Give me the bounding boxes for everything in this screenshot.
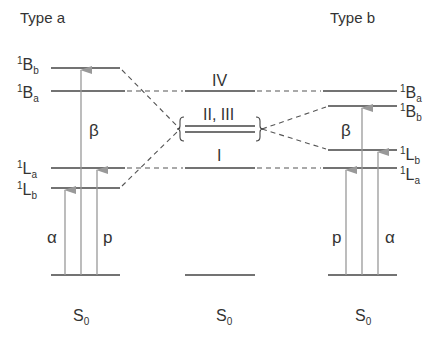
- right-level-1Bb: 1Bb: [400, 103, 422, 123]
- right-level-1Lb: 1Lb: [400, 146, 420, 166]
- right-p-label: p: [332, 229, 341, 246]
- center-level-I: I: [217, 148, 221, 164]
- center-level-IV: IV: [212, 73, 227, 89]
- right-levels: [323, 91, 397, 275]
- left-beta-label: β: [89, 122, 99, 139]
- left-level-1Ba: 1Ba: [17, 84, 39, 104]
- center-level-II-III: II, III: [203, 107, 234, 123]
- left-p-label: p: [103, 229, 112, 246]
- type-b-title: Type b: [330, 10, 375, 25]
- right-level-1Ba: 1Ba: [400, 84, 422, 104]
- right-ground-state: S0: [355, 308, 371, 327]
- left-level-1Lb: 1Lb: [17, 181, 37, 201]
- right-alpha-label: α: [385, 229, 395, 246]
- left-level-1Bb: 1Bb: [17, 56, 39, 76]
- left-levels: [51, 68, 125, 275]
- center-ground-state: S0: [216, 308, 232, 327]
- left-alpha-label: α: [47, 229, 57, 246]
- type-a-title: Type a: [20, 10, 65, 25]
- right-beta-label: β: [341, 122, 351, 139]
- right-level-1La: 1La: [400, 166, 420, 186]
- left-ground-state: S0: [73, 308, 89, 327]
- energy-level-diagram: [0, 0, 433, 340]
- left-level-1La: 1La: [17, 160, 37, 180]
